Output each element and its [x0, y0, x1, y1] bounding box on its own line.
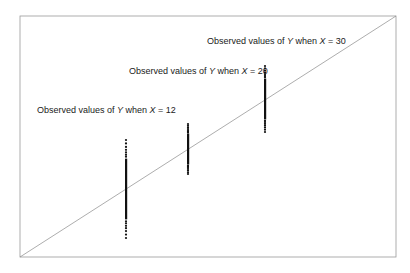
data-point — [125, 234, 127, 236]
data-point — [125, 151, 127, 153]
data-point — [125, 220, 127, 222]
regression-line — [20, 16, 396, 257]
data-point — [187, 173, 189, 175]
annotation-labels: Observed values of Y when X = 12 Observe… — [37, 36, 346, 115]
annotation-x12: Observed values of Y when X = 12 — [37, 105, 176, 115]
observation-columns — [125, 65, 266, 239]
data-point — [125, 142, 127, 144]
data-point — [125, 227, 127, 229]
data-point — [264, 126, 266, 128]
data-point — [125, 154, 127, 156]
data-point — [125, 222, 127, 224]
data-point — [125, 237, 127, 239]
regression-chart: Observed values of Y when X = 12 Observe… — [0, 0, 410, 273]
data-point — [264, 129, 266, 131]
annotation-x30: Observed values of Y when X = 30 — [207, 36, 346, 46]
data-point — [187, 123, 189, 125]
data-point — [125, 156, 127, 158]
observation-column-x20 — [187, 123, 189, 175]
data-point — [125, 149, 127, 151]
data-point — [125, 225, 127, 227]
annotation-x20: Observed values of Y when X = 20 — [129, 66, 268, 76]
data-point — [125, 146, 127, 148]
data-point — [125, 139, 127, 141]
data-point — [264, 124, 266, 126]
observation-column-x12 — [125, 139, 127, 239]
data-point — [125, 230, 127, 232]
data-point — [264, 131, 266, 133]
